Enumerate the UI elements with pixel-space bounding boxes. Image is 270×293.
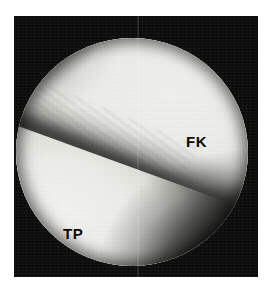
inferior-shadow-region [58, 134, 248, 266]
label-femoral-condyle: FK [186, 134, 207, 149]
label-tibial-plateau: TP [63, 226, 83, 241]
fluoroscopy-field-of-view [16, 38, 248, 266]
radiograph-frame: FK TP [14, 16, 258, 277]
figure-canvas: FK TP [0, 0, 270, 293]
